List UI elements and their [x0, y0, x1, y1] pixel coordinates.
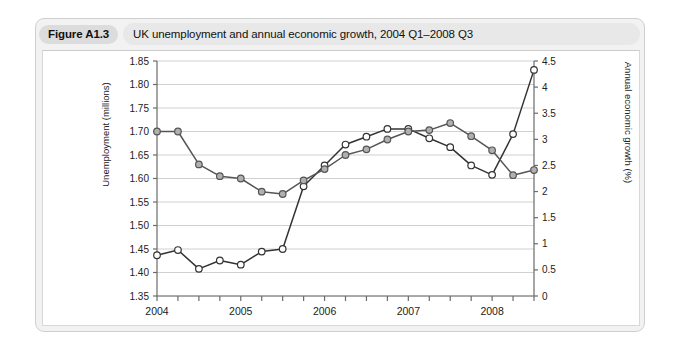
unemployment-data-point: [468, 133, 475, 140]
y-axis-right-tick-label: 2: [542, 186, 548, 197]
unemployment-data-point: [510, 172, 517, 179]
growth-data-point: [217, 257, 224, 264]
growth-data-point: [237, 261, 244, 268]
y-axis-right-tick-label: 3: [542, 134, 548, 145]
unemployment-data-point: [363, 146, 370, 153]
y-axis-left-tick-label: 1.35: [130, 291, 150, 302]
unemployment-data-point: [447, 120, 454, 127]
growth-data-point: [426, 135, 433, 142]
growth-data-point: [363, 133, 370, 140]
growth-data-point: [175, 247, 182, 254]
figure-caption-bar: Figure A1.3 UK unemployment and annual e…: [36, 19, 646, 49]
y-axis-right-tick-label: 0.5: [542, 264, 556, 275]
chart-plot-panel: Unemployment (millions) Annual economic …: [42, 50, 640, 326]
x-axis-tick-label: 2008: [480, 305, 504, 317]
y-axis-right-tick-label: 1.5: [542, 212, 556, 223]
growth-data-point: [447, 144, 454, 151]
y-axis-left-tick-label: 1.45: [130, 244, 150, 255]
y-axis-right-tick-label: 3.5: [542, 108, 556, 119]
y-axis-left-tick-label: 1.85: [130, 56, 150, 67]
growth-data-point: [384, 126, 391, 133]
unemployment-data-point: [321, 166, 328, 173]
y-axis-left-tick-label: 1.40: [130, 267, 150, 278]
unemployment-data-point: [154, 128, 161, 135]
x-axis-tick-label: 2005: [229, 305, 253, 317]
line-chart: 1.351.401.451.501.551.601.651.701.751.80…: [43, 51, 641, 327]
growth-data-point: [510, 131, 517, 138]
growth-data-point: [531, 67, 538, 74]
y-axis-left-tick-label: 1.60: [130, 173, 150, 184]
y-axis-right-tick-label: 1: [542, 238, 548, 249]
unemployment-data-point: [384, 136, 391, 143]
y-axis-right-tick-label: 4.5: [542, 56, 556, 67]
screenshot-root: Figure A1.3 UK unemployment and annual e…: [0, 0, 673, 360]
y-axis-left-tick-label: 1.55: [130, 197, 150, 208]
figure-number-badge: Figure A1.3: [39, 25, 118, 44]
y-axis-left-tick-label: 1.80: [130, 79, 150, 90]
figure-card: Figure A1.3 UK unemployment and annual e…: [35, 18, 645, 332]
unemployment-data-point: [531, 167, 538, 174]
unemployment-data-point: [489, 147, 496, 154]
growth-data-point: [342, 141, 349, 148]
growth-line: [157, 70, 534, 269]
unemployment-data-point: [196, 161, 203, 168]
y-axis-right-tick-label: 2.5: [542, 160, 556, 171]
y-axis-left-tick-label: 1.75: [130, 103, 150, 114]
figure-caption-text: UK unemployment and annual economic grow…: [133, 28, 473, 40]
growth-data-point: [154, 252, 161, 259]
unemployment-data-point: [217, 173, 224, 180]
y-axis-left-tick-label: 1.50: [130, 220, 150, 231]
y-axis-left-tick-label: 1.70: [130, 126, 150, 137]
y-axis-left-tick-label: 1.65: [130, 150, 150, 161]
x-axis-tick-label: 2006: [313, 305, 337, 317]
y-axis-right-tick-label: 4: [542, 82, 548, 93]
unemployment-data-point: [258, 188, 265, 195]
unemployment-data-point: [300, 177, 307, 184]
growth-data-point: [468, 162, 475, 169]
x-axis-tick-label: 2007: [397, 305, 421, 317]
growth-data-point: [279, 246, 286, 253]
unemployment-data-point: [237, 175, 244, 182]
unemployment-data-point: [279, 191, 286, 198]
x-axis-tick-label: 2004: [145, 305, 169, 317]
unemployment-data-point: [426, 127, 433, 134]
y-axis-right-tick-label: 0: [542, 291, 548, 302]
growth-data-point: [196, 266, 203, 273]
unemployment-data-point: [175, 128, 182, 135]
unemployment-data-point: [405, 128, 412, 135]
figure-caption-container: UK unemployment and annual economic grow…: [123, 23, 640, 45]
growth-data-point: [489, 172, 496, 179]
unemployment-data-point: [342, 152, 349, 159]
growth-data-point: [258, 248, 265, 255]
